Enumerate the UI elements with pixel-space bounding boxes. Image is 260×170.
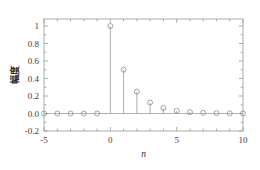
y-tick-label: -0.2 <box>25 126 39 136</box>
y-tick-label: 0.6 <box>28 56 40 66</box>
stem-plot-svg: -50510-0.20.00.20.40.60.81n幅度 <box>0 0 260 170</box>
y-tick-label: 0.0 <box>28 109 40 119</box>
x-axis-title: n <box>141 149 146 159</box>
y-tick-label: 1 <box>35 21 40 31</box>
y-tick-label: 0.8 <box>28 39 40 49</box>
x-tick-label: 5 <box>174 135 179 145</box>
x-tick-label: -5 <box>40 135 48 145</box>
y-tick-label: 0.2 <box>28 91 39 101</box>
x-tick-label: 10 <box>239 135 249 145</box>
plot-frame <box>44 19 243 131</box>
chart-figure: -50510-0.20.00.20.40.60.81n幅度 <box>0 0 260 170</box>
y-tick-label: 0.4 <box>28 74 40 84</box>
y-axis-title: 幅度 <box>9 65 20 84</box>
x-tick-label: 0 <box>108 135 113 145</box>
